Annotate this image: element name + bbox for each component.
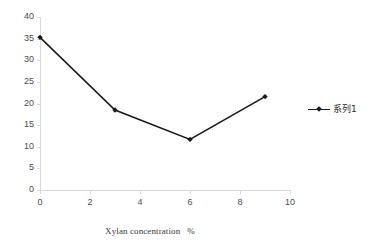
legend-marker-icon [308,105,330,114]
x-tick-mark [290,191,291,194]
y-tick-label: 30 [8,55,34,64]
x-axis-line [40,190,291,191]
x-tick-mark [240,191,241,194]
x-tick-mark [140,191,141,194]
y-tick-label: 40 [8,12,34,21]
x-tick-label: 0 [28,197,52,207]
y-tick-label: 5 [8,163,34,172]
y-tick-mark [37,17,40,18]
y-tick-label: 35 [8,34,34,43]
x-tick-mark [190,191,191,194]
x-tick-label: 2 [78,197,102,207]
y-tick-mark [37,125,40,126]
y-axis-line [40,17,41,191]
x-tick-label: 8 [228,197,252,207]
y-tick-mark [37,82,40,83]
y-tick-mark [37,39,40,40]
y-tick-mark [37,104,40,105]
y-axis-tick-labels: 0510152025303540 [0,0,34,246]
data-point-marker [262,94,267,99]
data-point-marker [187,137,192,142]
legend-label: 系列1 [333,104,357,114]
x-tick-label: 4 [128,197,152,207]
y-tick-mark [37,60,40,61]
x-tick-label: 10 [278,197,302,207]
line-chart: 0510152025303540 0246810 Xylan concentra… [0,0,385,246]
series-line [40,37,265,139]
x-tick-label: 6 [178,197,202,207]
y-tick-label: 20 [8,99,34,108]
x-tick-mark [90,191,91,194]
x-tick-mark [40,191,41,194]
data-point-marker [112,107,117,112]
series-plot [0,0,385,246]
y-tick-label: 0 [8,185,34,194]
y-tick-label: 25 [8,77,34,86]
y-tick-mark [37,147,40,148]
y-tick-label: 15 [8,120,34,129]
y-tick-label: 10 [8,142,34,151]
y-tick-mark [37,168,40,169]
x-axis-title: Xylan concentration % [0,226,300,236]
chart-legend: 系列1 [308,104,357,114]
